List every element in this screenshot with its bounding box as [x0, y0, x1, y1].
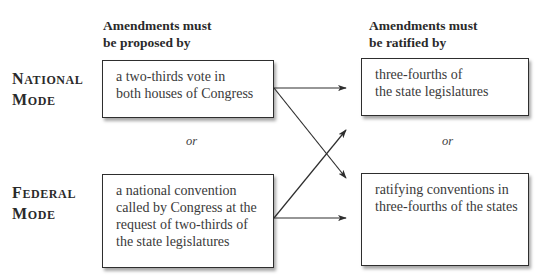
- arrow-national-to-conventions: [274, 88, 346, 178]
- arrows-layer: [0, 0, 544, 278]
- arrow-federal-to-legislatures: [274, 130, 346, 218]
